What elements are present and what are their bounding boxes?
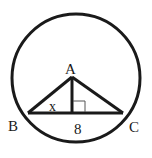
right-angle-marker: [73, 101, 85, 112]
label-a: A: [65, 61, 76, 77]
geometry-diagram: A B C x 8: [0, 0, 152, 158]
label-base-length: 8: [74, 121, 82, 137]
segment-ac: [72, 77, 123, 113]
label-b: B: [8, 118, 18, 134]
label-angle-x: x: [49, 99, 56, 114]
label-c: C: [129, 119, 139, 135]
